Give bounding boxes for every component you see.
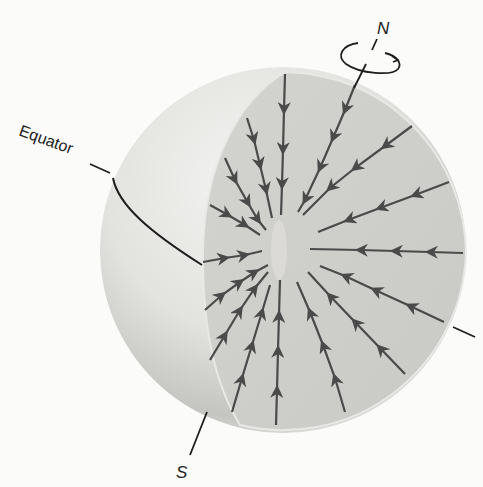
south-label: S [176,463,188,482]
north-label: N [377,19,390,38]
axis-tick-right [453,327,475,337]
rotation-icon [341,43,399,73]
equator-label: Equator [17,122,76,157]
diagram-canvas: Equator N S [0,0,483,487]
south-axis [190,412,207,455]
